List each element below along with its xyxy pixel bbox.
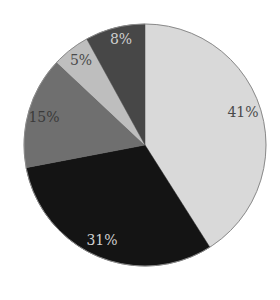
pie-slices — [24, 24, 266, 266]
slice-label: 8% — [110, 31, 132, 47]
slice-label: 5% — [70, 52, 92, 68]
slice-label: 41% — [227, 104, 258, 120]
pie-chart: 41%31%15%5%8% — [0, 0, 280, 300]
slice-label: 15% — [28, 109, 59, 125]
slice-label: 31% — [86, 232, 117, 248]
